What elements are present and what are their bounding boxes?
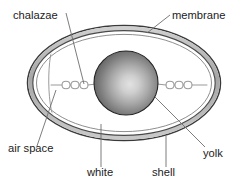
- diagram-canvas: chalazae membrane air space white shell …: [0, 0, 247, 185]
- label-shell: shell: [152, 166, 175, 178]
- egg-anatomy-diagram: chalazae membrane air space white shell …: [0, 0, 247, 185]
- yolk-sphere: [94, 51, 158, 115]
- label-chalazae: chalazae: [13, 9, 58, 21]
- label-white: white: [86, 166, 113, 178]
- label-air-space: air space: [8, 142, 53, 154]
- label-yolk: yolk: [203, 147, 223, 159]
- label-membrane: membrane: [172, 9, 225, 21]
